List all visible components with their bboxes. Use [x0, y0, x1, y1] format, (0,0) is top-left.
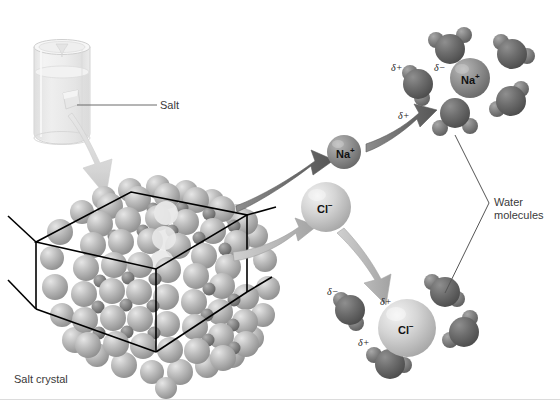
water-molecules-label: Watermolecules [494, 196, 544, 222]
salt-crystal-label: Salt crystal [14, 373, 68, 386]
water-molecule [489, 81, 529, 117]
partial-charge-label: δ− [327, 286, 338, 297]
water-molecule [442, 310, 479, 348]
partial-charge-label: δ+ [380, 296, 391, 307]
lattice-left-face [71, 252, 183, 363]
partial-charge-label: δ− [434, 62, 445, 73]
free-chloride-ion-label: Cl− [317, 201, 333, 215]
water-molecule [493, 34, 535, 69]
diagram-artwork [0, 0, 560, 411]
bottom-divider [0, 399, 560, 400]
water-molecules-label-line1: Water [494, 196, 523, 208]
water-molecules-leader-line [445, 135, 489, 293]
water-molecule [424, 274, 465, 307]
hydrated-sodium-ion-label: Na+ [461, 72, 480, 86]
water-molecule [428, 27, 472, 64]
water-molecules-label-line2: molecules [494, 209, 544, 221]
free-sodium-ion-label: Na+ [336, 146, 355, 160]
water-molecule [432, 98, 478, 136]
water-molecule [402, 65, 433, 106]
partial-charge-label: δ+ [398, 110, 409, 121]
partial-charge-label: δ+ [391, 62, 402, 73]
partial-charge-label: δ+ [358, 337, 369, 348]
salt-dissolution-figure: Salt Salt crystal Watermolecules Na+ Cl−… [0, 0, 560, 411]
hydrated-chloride-ion-label: Cl− [398, 322, 414, 336]
water-molecule [333, 292, 365, 331]
salt-label: Salt [160, 99, 179, 112]
